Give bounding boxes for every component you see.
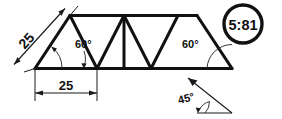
truss-structure xyxy=(35,16,232,69)
diagonal-dimension-value: 25 xyxy=(15,29,37,51)
web-diagonal-4 xyxy=(151,16,178,69)
left-end-diagonal xyxy=(35,16,70,69)
right-angle-value: 60° xyxy=(182,38,199,50)
slope-detail-45: 45° xyxy=(177,78,232,113)
baseline-arrow-right xyxy=(89,91,97,96)
web-diagonal-3 xyxy=(124,16,151,69)
dim-extension-bottom xyxy=(24,69,35,73)
baseline-dimension-value: 25 xyxy=(59,78,73,93)
technical-drawing-canvas: 25 60° 60° 25 xyxy=(0,0,282,119)
right-angle-annotation: 60° xyxy=(182,38,232,69)
web-diagonal-2 xyxy=(97,16,124,69)
baseline-arrow-left xyxy=(35,91,43,96)
baseline-dimension-25: 25 xyxy=(35,70,97,101)
left-angle-value: 60° xyxy=(75,38,92,50)
truss-drawing-svg: 25 60° 60° 25 xyxy=(0,0,282,119)
slope-detail-leader-arrow xyxy=(196,108,201,113)
page-reference-badge: 5:81 xyxy=(224,5,262,43)
left-angle-annotation: 60° xyxy=(52,38,92,69)
badge-label: 5:81 xyxy=(228,17,257,33)
slope-detail-value: 45° xyxy=(177,90,196,106)
